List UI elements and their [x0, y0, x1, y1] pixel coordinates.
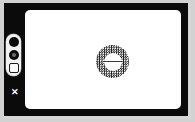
chassis-bottom-gutter: [4, 116, 191, 119]
filled-circle-icon[interactable]: [9, 37, 19, 47]
halftone-donut-shape[interactable]: [96, 45, 129, 78]
donut-center-line: [103, 61, 122, 62]
tool-palette[interactable]: [6, 34, 21, 76]
canvas-surface[interactable]: [25, 10, 181, 109]
app-window: ✕: [0, 0, 195, 122]
ring-circle-icon[interactable]: [9, 50, 19, 60]
close-x-icon[interactable]: ✕: [9, 87, 20, 98]
app-chassis: ✕: [4, 3, 191, 119]
chassis-right-gutter: [188, 3, 191, 119]
outlined-square-icon[interactable]: [9, 63, 19, 73]
